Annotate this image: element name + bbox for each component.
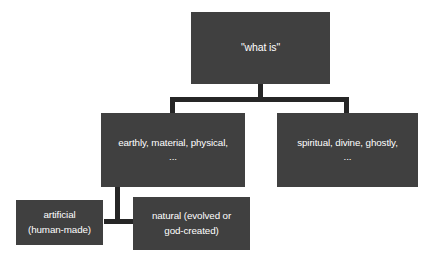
node-natural-evolved-or-god-created[interactable]: natural (evolved or god-created) bbox=[133, 197, 250, 250]
diagram-canvas: "what is" earthly, material, physical, .… bbox=[0, 0, 429, 256]
node-earthly-material-physical[interactable]: earthly, material, physical, ... bbox=[101, 113, 245, 187]
connector-bracket-left-drop bbox=[170, 97, 175, 114]
node-artificial-human-made[interactable]: artificial (human-made) bbox=[16, 200, 103, 245]
connector-bracket-horizontal bbox=[170, 97, 349, 102]
connector-bracket-right-drop bbox=[344, 97, 349, 114]
node-spiritual-divine-ghostly-label: spiritual, divine, ghostly, ... bbox=[280, 136, 415, 164]
node-natural-evolved-or-god-created-label: natural (evolved or god-created) bbox=[136, 209, 247, 237]
node-spiritual-divine-ghostly[interactable]: spiritual, divine, ghostly, ... bbox=[277, 113, 418, 187]
node-what-is[interactable]: "what is" bbox=[191, 12, 330, 84]
connector-sub-base-horizontal bbox=[104, 219, 135, 224]
node-earthly-material-physical-label: earthly, material, physical, ... bbox=[104, 136, 242, 164]
connector-sub-stem bbox=[115, 187, 120, 219]
node-what-is-label: "what is" bbox=[191, 40, 330, 55]
node-artificial-human-made-label: artificial (human-made) bbox=[18, 208, 101, 236]
